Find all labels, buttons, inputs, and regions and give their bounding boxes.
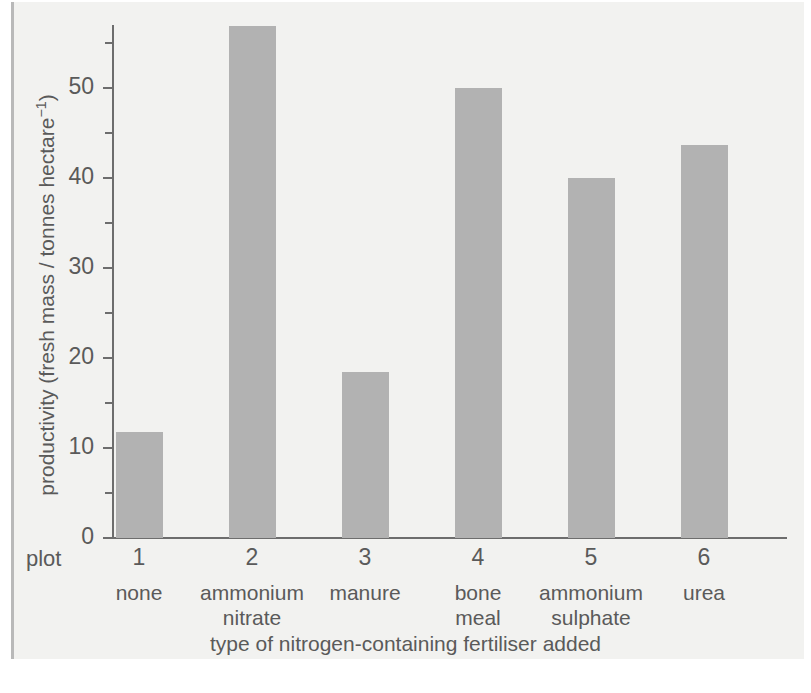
y-axis-title-superscript: −1 — [33, 101, 49, 117]
plot-area: productivity (fresh mass / tonnes hectar… — [0, 0, 811, 693]
x-category-6: 6urea — [619, 545, 789, 606]
y-tick-label-10: 10 — [34, 435, 94, 458]
y-tick-label-30: 30 — [34, 255, 94, 278]
plot-row-label: plot — [26, 546, 61, 572]
y-tick-20 — [103, 357, 113, 359]
y-tick-label-20: 20 — [34, 345, 94, 368]
bar-plot-6 — [681, 145, 728, 538]
x-axis-title: type of nitrogen-containing fertiliser a… — [0, 632, 811, 656]
y-axis-line — [112, 25, 114, 539]
y-axis-title: productivity (fresh mass / tonnes hectar… — [33, 35, 59, 555]
bar-plot-2 — [229, 26, 276, 538]
bar-plot-5 — [568, 178, 615, 538]
y-tick-0 — [103, 537, 113, 539]
y-tick-label-40: 40 — [34, 165, 94, 188]
bar-plot-3 — [342, 372, 389, 538]
y-tick-10 — [103, 447, 113, 449]
x-plot-number-6: 6 — [619, 545, 789, 569]
y-tick-50 — [103, 87, 113, 89]
y-tick-label-50: 50 — [34, 75, 94, 98]
bar-plot-4 — [455, 88, 502, 538]
y-tick-30 — [103, 267, 113, 269]
y-minor-tick-25 — [105, 312, 113, 314]
y-minor-tick-5 — [105, 492, 113, 494]
y-minor-tick-15 — [105, 402, 113, 404]
x-category-label-6: urea — [619, 581, 789, 606]
figure: productivity (fresh mass / tonnes hectar… — [0, 0, 811, 693]
y-minor-tick-35 — [105, 222, 113, 224]
y-minor-tick-45 — [105, 132, 113, 134]
bar-plot-1 — [116, 432, 163, 538]
y-tick-40 — [103, 177, 113, 179]
y-minor-tick-55 — [105, 42, 113, 44]
